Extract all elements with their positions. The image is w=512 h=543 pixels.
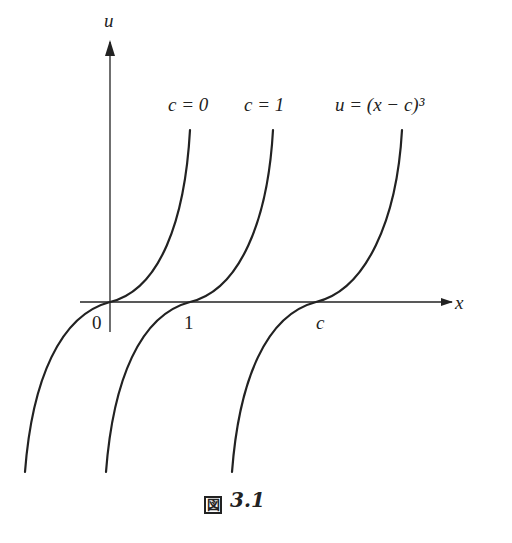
figure-caption: 図3.1	[204, 488, 265, 514]
tick-label-0: 0	[92, 312, 102, 334]
u-axis-label: u	[104, 10, 114, 32]
curve-c1	[106, 130, 273, 472]
curve-label-c1: c = 1	[244, 94, 284, 116]
u-axis-arrow-icon	[105, 40, 115, 56]
x-axis-label: x	[455, 292, 463, 314]
curve-label-formula: u = (x − c)³	[335, 94, 424, 116]
curve-label-c0: c = 0	[168, 94, 208, 116]
tick-label-1: 1	[184, 312, 194, 334]
curve-c	[232, 130, 402, 472]
caption-prefix: 図	[204, 496, 222, 514]
diagram-canvas	[0, 0, 512, 543]
tick-label-c: c	[316, 312, 324, 334]
curve-c0	[25, 130, 190, 472]
caption-number: 3.1	[230, 488, 265, 512]
